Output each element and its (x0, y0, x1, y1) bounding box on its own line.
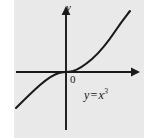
origin-label: 0 (70, 74, 76, 85)
equation-label: y=x3 (84, 88, 108, 101)
figure-root: y x 0 y=x3 (0, 0, 144, 138)
cubic-curve (16, 11, 130, 108)
equation-exponent: 3 (104, 87, 108, 96)
equation-operator: = (90, 88, 99, 102)
y-axis-label: y (66, 2, 71, 13)
cubic-graph-svg (14, 0, 144, 138)
equation-lhs: y (84, 88, 90, 102)
plot-panel: y x 0 y=x3 (14, 0, 144, 138)
x-axis-arrowhead (131, 68, 140, 77)
